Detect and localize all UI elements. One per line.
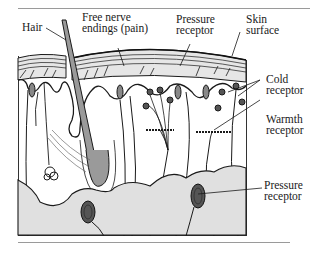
bottom-rule (18, 242, 290, 243)
label-skin-surface: Skin surface (246, 14, 279, 36)
label-free-nerve-endings: Free nerve endings (pain) (82, 12, 148, 34)
label-hair: Hair (22, 22, 42, 33)
label-cold-receptor: Cold receptor (266, 74, 304, 96)
label-warmth-receptor: Warmth receptor (266, 114, 304, 136)
label-pressure-receptor-bottom: Pressure receptor (264, 180, 303, 202)
label-pressure-receptor-top: Pressure receptor (176, 14, 215, 36)
